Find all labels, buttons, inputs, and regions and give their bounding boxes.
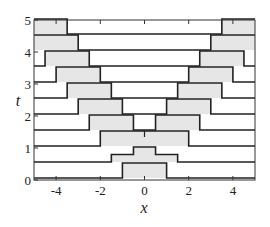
x-tick-label: 0 — [141, 183, 148, 198]
x-tick-label: -2 — [95, 183, 106, 198]
x-axis-label: x — [139, 199, 147, 216]
pulse-evolution-chart: -4-2024 012345 x t — [0, 0, 270, 227]
y-tick-label: 3 — [25, 77, 32, 92]
pulse-fill — [34, 115, 255, 130]
pulse-fill — [34, 35, 255, 50]
pulse-trace — [34, 83, 255, 98]
y-tick-label: 4 — [25, 45, 32, 60]
pulse-trace — [34, 115, 255, 130]
pulse-fill — [34, 67, 255, 82]
y-tick-label: 1 — [25, 141, 32, 156]
y-tick-label: 0 — [25, 173, 32, 188]
x-tick-label: 4 — [230, 183, 237, 198]
x-tick-label: 2 — [185, 183, 192, 198]
y-tick-label: 2 — [25, 109, 32, 124]
pulse-trace — [34, 99, 255, 114]
pulse-fill — [34, 163, 255, 178]
pulse-fill — [34, 147, 255, 162]
pulse-fill — [34, 51, 255, 66]
pulse-fill — [34, 99, 255, 114]
y-axis-label: t — [16, 92, 21, 109]
x-tick-label: -4 — [51, 183, 62, 198]
y-tick-label: 5 — [25, 13, 32, 28]
